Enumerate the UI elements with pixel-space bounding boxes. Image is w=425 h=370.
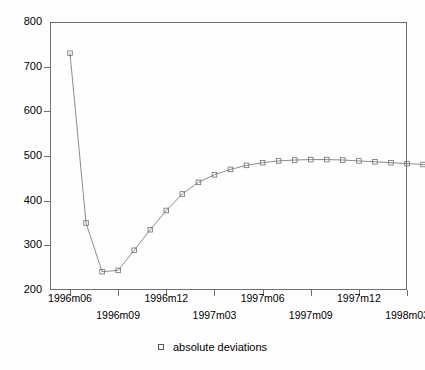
- chart-legend: absolute deviations: [0, 341, 425, 353]
- series-markers-absolute-deviations: [68, 51, 425, 274]
- open-square-marker-icon: [158, 344, 164, 350]
- legend-series-label: absolute deviations: [173, 341, 267, 353]
- series-line-absolute-deviations: [70, 53, 425, 271]
- chart-container: 200300400500600700800 1996m061996m091996…: [0, 0, 425, 370]
- data-series-layer: [0, 0, 425, 370]
